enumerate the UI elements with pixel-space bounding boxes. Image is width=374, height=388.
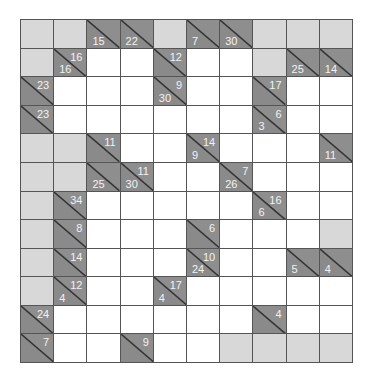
entry-cell[interactable] — [287, 163, 319, 191]
blank-cell — [253, 20, 285, 48]
clue-cell: 7 — [187, 20, 219, 48]
across-clue-sum: 17 — [170, 279, 182, 291]
entry-cell[interactable] — [121, 249, 153, 277]
clue-cell: 22 — [121, 20, 153, 48]
blank-cell — [54, 163, 86, 191]
down-clue-sum: 14 — [325, 63, 337, 75]
across-clue-sum: 12 — [70, 279, 82, 291]
clue-cell: 34 — [54, 192, 86, 220]
blank-cell — [21, 163, 53, 191]
entry-cell[interactable] — [287, 134, 319, 162]
entry-cell[interactable] — [187, 334, 219, 362]
clue-cell: 1024 — [187, 249, 219, 277]
entry-cell[interactable] — [253, 134, 285, 162]
down-clue-sum: 5 — [292, 263, 298, 275]
down-clue-sum: 9 — [192, 149, 198, 161]
entry-cell[interactable] — [154, 306, 186, 334]
entry-cell[interactable] — [121, 220, 153, 248]
across-clue-sum: 7 — [43, 336, 49, 348]
entry-cell[interactable] — [87, 77, 119, 105]
entry-cell[interactable] — [121, 106, 153, 134]
across-clue-sum: 6 — [209, 222, 215, 234]
entry-cell[interactable] — [187, 306, 219, 334]
entry-cell[interactable] — [121, 277, 153, 305]
clue-cell: 7 — [21, 334, 53, 362]
blank-cell — [253, 49, 285, 77]
entry-cell[interactable] — [87, 220, 119, 248]
entry-cell[interactable] — [121, 49, 153, 77]
entry-cell[interactable] — [87, 192, 119, 220]
clue-cell: 25 — [287, 49, 319, 77]
entry-cell[interactable] — [220, 249, 252, 277]
entry-cell[interactable] — [121, 192, 153, 220]
entry-cell[interactable] — [220, 192, 252, 220]
entry-cell[interactable] — [287, 106, 319, 134]
blank-cell — [21, 134, 53, 162]
across-clue-sum: 4 — [275, 308, 281, 320]
entry-cell[interactable] — [154, 106, 186, 134]
entry-cell[interactable] — [87, 277, 119, 305]
blank-cell — [287, 20, 319, 48]
across-clue-sum: 14 — [70, 251, 82, 263]
entry-cell[interactable] — [220, 277, 252, 305]
entry-cell[interactable] — [121, 306, 153, 334]
entry-cell[interactable] — [320, 77, 352, 105]
entry-cell[interactable] — [54, 77, 86, 105]
entry-cell[interactable] — [253, 277, 285, 305]
blank-cell — [21, 192, 53, 220]
entry-cell[interactable] — [287, 277, 319, 305]
entry-cell[interactable] — [220, 77, 252, 105]
entry-cell[interactable] — [253, 249, 285, 277]
entry-cell[interactable] — [121, 134, 153, 162]
entry-cell[interactable] — [87, 249, 119, 277]
clue-cell: 9 — [121, 334, 153, 362]
entry-cell[interactable] — [87, 334, 119, 362]
clue-cell: 4 — [320, 249, 352, 277]
entry-cell[interactable] — [87, 106, 119, 134]
clue-cell: 11 — [320, 134, 352, 162]
entry-cell[interactable] — [320, 163, 352, 191]
entry-cell[interactable] — [187, 49, 219, 77]
entry-cell[interactable] — [220, 134, 252, 162]
clue-cell: 12 — [154, 49, 186, 77]
entry-cell[interactable] — [287, 220, 319, 248]
clue-cell: 930 — [154, 77, 186, 105]
entry-cell[interactable] — [187, 77, 219, 105]
entry-cell[interactable] — [187, 277, 219, 305]
entry-cell[interactable] — [154, 134, 186, 162]
clue-cell: 11 — [87, 134, 119, 162]
down-clue-sum: 30 — [126, 178, 138, 190]
entry-cell[interactable] — [187, 106, 219, 134]
entry-cell[interactable] — [220, 49, 252, 77]
entry-cell[interactable] — [87, 306, 119, 334]
entry-cell[interactable] — [154, 334, 186, 362]
entry-cell[interactable] — [320, 277, 352, 305]
across-clue-sum: 14 — [203, 136, 215, 148]
entry-cell[interactable] — [287, 192, 319, 220]
entry-cell[interactable] — [154, 192, 186, 220]
entry-cell[interactable] — [320, 192, 352, 220]
blank-cell — [21, 249, 53, 277]
across-clue-sum: 11 — [137, 165, 148, 177]
entry-cell[interactable] — [320, 306, 352, 334]
entry-cell[interactable] — [287, 306, 319, 334]
entry-cell[interactable] — [154, 220, 186, 248]
entry-cell[interactable] — [121, 77, 153, 105]
entry-cell[interactable] — [54, 334, 86, 362]
entry-cell[interactable] — [253, 220, 285, 248]
entry-cell[interactable] — [187, 192, 219, 220]
entry-cell[interactable] — [220, 306, 252, 334]
entry-cell[interactable] — [154, 249, 186, 277]
entry-cell[interactable] — [287, 77, 319, 105]
entry-cell[interactable] — [54, 106, 86, 134]
clue-cell: 174 — [154, 277, 186, 305]
entry-cell[interactable] — [187, 163, 219, 191]
entry-cell[interactable] — [154, 163, 186, 191]
entry-cell[interactable] — [320, 106, 352, 134]
entry-cell[interactable] — [220, 106, 252, 134]
entry-cell[interactable] — [253, 163, 285, 191]
entry-cell[interactable] — [87, 49, 119, 77]
clue-cell: 166 — [253, 192, 285, 220]
entry-cell[interactable] — [220, 220, 252, 248]
entry-cell[interactable] — [54, 306, 86, 334]
